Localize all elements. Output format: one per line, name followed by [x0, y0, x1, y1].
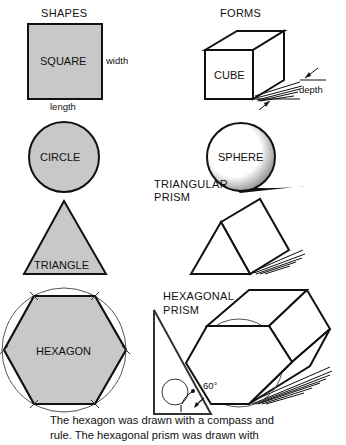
angle-label: 60° [203, 380, 218, 391]
cube-label: CUBE [214, 69, 245, 81]
square-shape: SQUARE width length [28, 24, 128, 112]
width-label: width [105, 55, 128, 66]
caption-line-2: rule. The hexagonal prism was drawn with [50, 428, 346, 443]
sphere-label: SPHERE [218, 151, 263, 163]
caption-line-1: The hexagon was drawn with a compass and [50, 413, 346, 428]
square-label: SQUARE [40, 55, 86, 67]
caption: The hexagon was drawn with a compass and… [50, 413, 346, 443]
triangle-shape: TRIANGLE [24, 201, 106, 274]
hexagon-shape: HEXAGON [0, 288, 130, 412]
cube-form: CUBE depth [205, 31, 326, 110]
hexagonal-prism-label-line2: PRISM [163, 304, 199, 316]
depth-label: depth [299, 84, 323, 95]
length-label: length [50, 101, 76, 112]
shapes-header: SHAPES [41, 7, 87, 19]
triangular-prism-form: TRIANGULAR PRISM [154, 178, 305, 274]
hexagonal-prism-label-line1: HEXAGONAL [163, 290, 234, 302]
forms-header: FORMS [220, 7, 261, 19]
shapes-forms-diagram: SHAPES FORMS SQUARE width length CUBE de… [0, 0, 346, 445]
triangle-label: TRIANGLE [34, 259, 89, 271]
hexagonal-prism-form: HEXAGONAL PRISM 60° [154, 290, 332, 414]
circle-shape: CIRCLE [29, 122, 99, 192]
circle-label: CIRCLE [40, 151, 80, 163]
triangular-prism-label-line2: PRISM [154, 191, 190, 203]
triangular-prism-label-line1: TRIANGULAR [154, 178, 228, 190]
hexagon-label: HEXAGON [36, 345, 91, 357]
